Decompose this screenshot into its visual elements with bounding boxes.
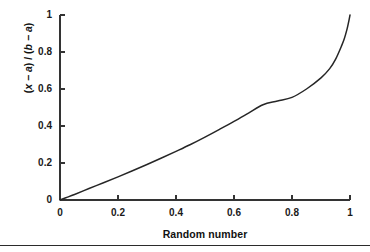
y-tick-label-1: 1 (32, 10, 52, 20)
y-tick-label-02: 0.2 (27, 158, 52, 168)
bottom-divider-rule (0, 245, 370, 246)
y-title-minus-1: − (22, 72, 34, 84)
y-title-open-paren-1: ( (22, 90, 34, 94)
y-tick-label-0: 0 (32, 195, 52, 205)
y-title-minus-2: − (22, 32, 34, 44)
x-tick-label-06: 0.6 (220, 208, 248, 218)
y-title-var-x: x (22, 84, 34, 90)
y-title-slash: / (22, 54, 34, 63)
y-title-close-paren-1: ) (22, 63, 34, 67)
x-tick-label-04: 0.4 (162, 208, 190, 218)
chart-figure: 0 0.2 0.4 0.6 0.8 1 0 0.2 0.4 0.6 0.8 1 … (0, 0, 370, 252)
x-tick-label-02: 0.2 (104, 208, 132, 218)
y-title-var-a-2: a (22, 26, 34, 32)
x-tick-label-08: 0.8 (278, 208, 306, 218)
x-tick-label-1: 1 (338, 208, 362, 218)
y-axis-title: (x − a) / (b − a) (22, 0, 34, 148)
x-axis-title: Random number (60, 228, 350, 240)
y-title-var-a-1: a (22, 66, 34, 72)
data-series-line (60, 15, 350, 200)
y-title-var-b: b (22, 44, 34, 50)
y-title-open-paren-2: ( (22, 50, 34, 54)
x-tick-label-0: 0 (48, 208, 72, 218)
y-title-close-paren-2: ) (22, 23, 34, 27)
